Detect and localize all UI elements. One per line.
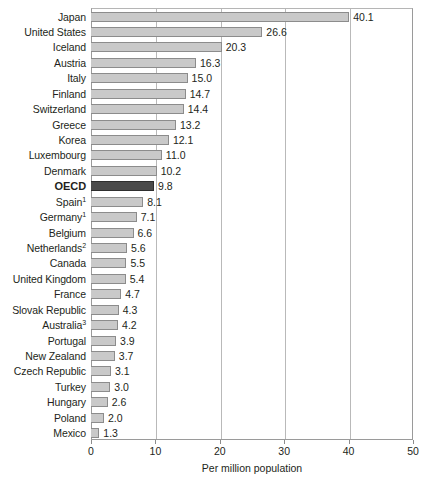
category-label: United Kingdom	[0, 273, 86, 285]
bar-chart: Japan40.1United States26.6Iceland20.3Aus…	[0, 0, 426, 485]
bar-value-label: 7.1	[141, 211, 156, 223]
bar	[91, 104, 184, 114]
bar-value-label: 4.3	[123, 304, 138, 316]
bar-value-label: 16.3	[200, 57, 220, 69]
bar-value-label: 5.4	[130, 273, 145, 285]
category-label: Slovak Republic	[0, 304, 86, 316]
bar-value-label: 11.0	[166, 149, 186, 161]
category-label: United States	[0, 26, 86, 38]
bar-value-label: 13.2	[180, 119, 200, 131]
bar	[91, 12, 349, 22]
bar	[91, 27, 262, 37]
bar-value-label: 5.5	[130, 257, 145, 269]
bar	[91, 135, 169, 145]
footnote-marker: 1	[82, 195, 86, 202]
bar-value-label: 26.6	[266, 26, 286, 38]
category-label: Mexico	[0, 427, 86, 439]
bar	[91, 320, 118, 330]
bar	[91, 243, 127, 253]
category-label: Germany1	[0, 211, 86, 223]
bar	[91, 181, 154, 191]
bar-value-label: 2.6	[112, 396, 127, 408]
bar	[91, 166, 157, 176]
bar	[91, 89, 186, 99]
bar	[91, 428, 99, 438]
bar	[91, 305, 119, 315]
bar	[91, 413, 104, 423]
bar	[91, 58, 196, 68]
bar	[91, 289, 121, 299]
bar-value-label: 3.7	[119, 350, 134, 362]
bar	[91, 336, 116, 346]
category-label: Spain1	[0, 196, 86, 208]
bar-rows: Japan40.1United States26.6Iceland20.3Aus…	[0, 8, 426, 440]
bar-value-label: 20.3	[226, 41, 246, 53]
bar-value-label: 3.9	[120, 335, 135, 347]
bar	[91, 212, 137, 222]
x-tick-mark	[155, 440, 156, 444]
bar-value-label: 4.2	[122, 319, 137, 331]
bar	[91, 42, 222, 52]
x-axis: 01020304050	[0, 440, 426, 458]
bar	[91, 150, 162, 160]
category-label: Belgium	[0, 227, 86, 239]
bar	[91, 73, 188, 83]
footnote-marker: 3	[82, 319, 86, 326]
category-label: France	[0, 288, 86, 300]
bar-value-label: 4.7	[125, 288, 140, 300]
category-label: Czech Republic	[0, 365, 86, 377]
x-tick-mark	[413, 440, 414, 444]
x-tick-label: 40	[343, 445, 355, 457]
category-label: Netherlands2	[0, 242, 86, 254]
category-label: OECD	[0, 180, 86, 192]
bar-value-label: 14.7	[190, 88, 210, 100]
x-tick-mark	[91, 440, 92, 444]
bar-value-label: 8.1	[147, 196, 162, 208]
category-label: Denmark	[0, 165, 86, 177]
category-label: Austria	[0, 57, 86, 69]
footnote-marker: 1	[82, 211, 86, 218]
bar-value-label: 3.0	[114, 381, 129, 393]
category-label: Luxembourg	[0, 149, 86, 161]
bar-value-label: 40.1	[353, 11, 373, 23]
x-tick-mark	[349, 440, 350, 444]
x-axis-title: Per million population	[91, 462, 413, 474]
bar	[91, 351, 115, 361]
bar	[91, 366, 111, 376]
category-label: Japan	[0, 11, 86, 23]
bar-value-label: 15.0	[192, 72, 212, 84]
bar-value-label: 14.4	[188, 103, 208, 115]
bar-value-label: 9.8	[158, 180, 173, 192]
x-tick-mark	[220, 440, 221, 444]
category-label: Korea	[0, 134, 86, 146]
bar	[91, 258, 126, 268]
bar	[91, 197, 143, 207]
x-tick-label: 30	[278, 445, 290, 457]
bar	[91, 228, 134, 238]
category-label: Canada	[0, 257, 86, 269]
x-tick-label: 10	[150, 445, 162, 457]
x-tick-label: 20	[214, 445, 226, 457]
category-label: Finland	[0, 88, 86, 100]
x-tick-label: 50	[407, 445, 419, 457]
bar-value-label: 3.1	[115, 365, 130, 377]
category-label: Greece	[0, 119, 86, 131]
bar-value-label: 6.6	[138, 227, 153, 239]
bar	[91, 274, 126, 284]
category-label: Hungary	[0, 396, 86, 408]
category-label: Italy	[0, 72, 86, 84]
category-label: Australia3	[0, 319, 86, 331]
bar-value-label: 1.3	[103, 427, 118, 439]
bar-value-label: 5.6	[131, 242, 146, 254]
bar	[91, 120, 176, 130]
category-label: New Zealand	[0, 350, 86, 362]
bar-value-label: 2.0	[108, 412, 123, 424]
category-label: Poland	[0, 412, 86, 424]
category-label: Turkey	[0, 381, 86, 393]
bar	[91, 382, 110, 392]
category-label: Switzerland	[0, 103, 86, 115]
x-tick-mark	[284, 440, 285, 444]
bar-value-label: 12.1	[173, 134, 193, 146]
bar-value-label: 10.2	[161, 165, 181, 177]
x-tick-label: 0	[88, 445, 94, 457]
